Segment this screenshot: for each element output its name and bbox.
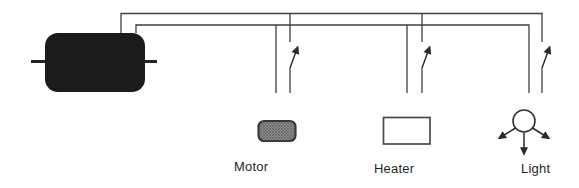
circuit-drawing xyxy=(0,0,579,188)
light-ray-arrow-right xyxy=(533,128,549,138)
light-bulb-icon xyxy=(513,110,535,132)
motor-label: Motor xyxy=(234,159,268,174)
heater-label: Heater xyxy=(374,161,414,176)
light-branch-wires xyxy=(542,48,550,94)
motor-switch-icon xyxy=(290,48,298,69)
light-label: Light xyxy=(521,161,550,176)
heater-switch-icon xyxy=(422,48,430,69)
motor-symbol xyxy=(259,121,296,141)
light-switch-icon xyxy=(542,48,550,69)
light-ray-arrow-left xyxy=(500,128,516,138)
power-supply-body xyxy=(45,33,145,92)
heater-symbol xyxy=(384,118,431,145)
top-bus-wire xyxy=(121,14,542,43)
power-supply-symbol xyxy=(31,33,157,92)
bottom-bus-wire xyxy=(136,25,529,93)
light-symbol xyxy=(500,110,549,154)
circuit-diagram: Motor Heater Light xyxy=(0,0,579,188)
